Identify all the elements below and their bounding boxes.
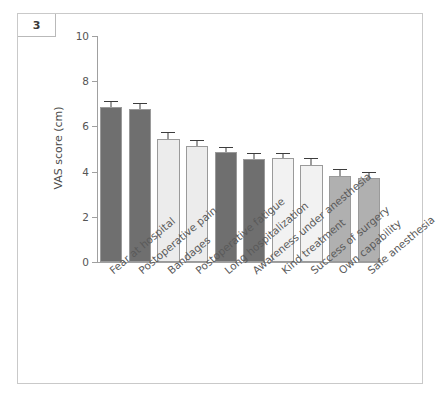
error-bar-cap <box>304 158 318 159</box>
error-bar-cap <box>247 153 261 154</box>
y-axis-tick-label: 2 <box>82 211 89 223</box>
error-bar-line <box>139 104 140 110</box>
y-axis-tick <box>92 81 97 82</box>
bar-item <box>243 36 265 262</box>
y-axis-title: VAS score (cm) <box>52 106 65 189</box>
error-bar-cap <box>219 147 233 148</box>
y-axis-tick <box>92 126 97 127</box>
bar-rect <box>129 109 151 262</box>
bar-item <box>100 36 122 262</box>
error-bar-line <box>168 133 169 139</box>
bar-item <box>129 36 151 262</box>
x-axis-line <box>97 262 384 263</box>
error-bar-cap <box>362 172 376 173</box>
bar-item <box>300 36 322 262</box>
bar-item <box>215 36 237 262</box>
bar-rect <box>186 146 208 262</box>
error-bar-cap <box>161 132 175 133</box>
error-bar-cap <box>104 101 118 102</box>
error-bar-line <box>197 141 198 146</box>
bar-rect <box>243 159 265 262</box>
panel-number-badge: 3 <box>18 14 56 37</box>
error-bar-cap <box>190 140 204 141</box>
y-axis-tick-label: 4 <box>82 166 89 178</box>
y-axis-tick <box>92 217 97 218</box>
y-axis-tick-label: 8 <box>82 75 89 87</box>
bar-item <box>272 36 294 262</box>
bar-item <box>186 36 208 262</box>
error-bar-line <box>282 154 283 159</box>
error-bar-cap <box>333 169 347 170</box>
panel-number-label: 3 <box>33 19 41 32</box>
y-axis-tick-label: 10 <box>76 30 89 42</box>
bar-rect <box>329 176 351 262</box>
error-bar-line <box>111 102 112 108</box>
bar-item <box>329 36 351 262</box>
error-bar-line <box>254 154 255 160</box>
bar-rect <box>100 107 122 262</box>
y-axis-tick <box>92 36 97 37</box>
y-axis-tick <box>92 262 97 263</box>
y-axis-tick <box>92 172 97 173</box>
bar-rect <box>157 139 179 262</box>
error-bar-line <box>368 173 369 179</box>
bar-item <box>358 36 380 262</box>
bar-rect <box>215 152 237 262</box>
y-axis-tick-label: 0 <box>82 256 89 268</box>
bar-rect <box>358 178 380 262</box>
y-axis-tick-label: 6 <box>82 120 89 132</box>
error-bar-line <box>311 159 312 165</box>
bar-item <box>157 36 179 262</box>
figure-panel: 3 VAS score (cm) 0246810 Fear at hospita… <box>0 0 443 405</box>
error-bar-cap <box>276 153 290 154</box>
plot-area: 0246810 <box>97 36 383 262</box>
error-bar-cap <box>133 103 147 104</box>
bar-rect <box>272 158 294 262</box>
error-bar-line <box>225 148 226 153</box>
error-bar-line <box>340 170 341 176</box>
bar-rect <box>300 165 322 262</box>
